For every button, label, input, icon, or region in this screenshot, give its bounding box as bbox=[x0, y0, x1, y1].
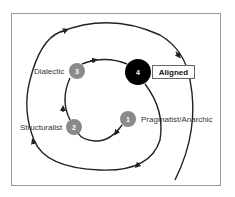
stage-2-number: 2 bbox=[72, 124, 76, 131]
stage-1-number: 1 bbox=[126, 116, 130, 123]
stage-4-number: 4 bbox=[136, 69, 140, 76]
stage-3-node: 3 bbox=[69, 63, 85, 79]
stage-1-node: 1 bbox=[120, 111, 136, 127]
stage-4-label-box: Aligned bbox=[152, 65, 195, 79]
stage-4-label: Aligned bbox=[159, 68, 188, 77]
spiral-path bbox=[0, 0, 235, 197]
stage-2-label: Structuralist bbox=[20, 123, 62, 132]
stage-3-label: Dialectic bbox=[34, 67, 64, 76]
stage-3-number: 3 bbox=[75, 68, 79, 75]
stage-4-node: 4 bbox=[125, 59, 151, 85]
stage-2-node: 2 bbox=[66, 119, 82, 135]
stage-1-label: Pragmatist/Anarchic bbox=[141, 115, 213, 124]
